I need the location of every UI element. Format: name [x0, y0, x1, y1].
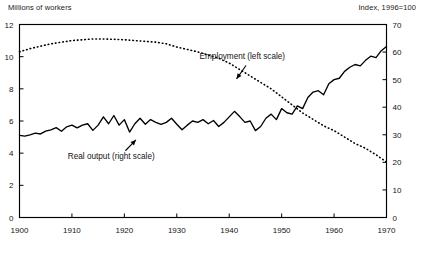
- left-axis-ticks: 024681012: [5, 21, 24, 223]
- right-tick-label: 10: [393, 186, 402, 195]
- annotations-group: Employment (left scale)Real output (righ…: [68, 52, 286, 161]
- x-tick-label: 1930: [168, 226, 186, 235]
- left-tick-label: 10: [5, 53, 14, 62]
- left-tick-label: 4: [9, 149, 14, 158]
- right-tick-label: 20: [393, 158, 402, 167]
- x-tick-label: 1900: [11, 226, 29, 235]
- x-tick-label: 1970: [378, 226, 396, 235]
- chart-plot-area: 024681012 010203040506070 19001910192019…: [0, 0, 425, 258]
- x-tick-label: 1910: [63, 226, 81, 235]
- x-axis-ticks: 19001910192019301940195019601970: [11, 214, 396, 235]
- left-tick-label: 0: [9, 214, 14, 223]
- left-tick-label: 2: [9, 181, 14, 190]
- chart-figure: Millions of workers Index, 1996=100 0246…: [0, 0, 425, 258]
- right-tick-label: 0: [393, 214, 398, 223]
- right-tick-label: 30: [393, 131, 402, 140]
- x-tick-label: 1960: [325, 226, 343, 235]
- real-output-annotation-label: Real output (right scale): [68, 152, 155, 161]
- left-tick-label: 6: [9, 117, 14, 126]
- right-tick-label: 50: [393, 76, 402, 85]
- right-tick-label: 70: [393, 21, 402, 30]
- x-tick-label: 1950: [273, 226, 291, 235]
- right-tick-label: 60: [393, 48, 402, 57]
- employment-annotation-arrow-head: [237, 73, 242, 79]
- x-tick-label: 1920: [115, 226, 133, 235]
- right-tick-label: 40: [393, 103, 402, 112]
- left-tick-label: 12: [5, 21, 14, 30]
- x-tick-label: 1940: [220, 226, 238, 235]
- employment-annotation-label: Employment (left scale): [200, 52, 286, 61]
- left-tick-label: 8: [9, 85, 14, 94]
- right-axis-ticks: 010203040506070: [383, 21, 402, 223]
